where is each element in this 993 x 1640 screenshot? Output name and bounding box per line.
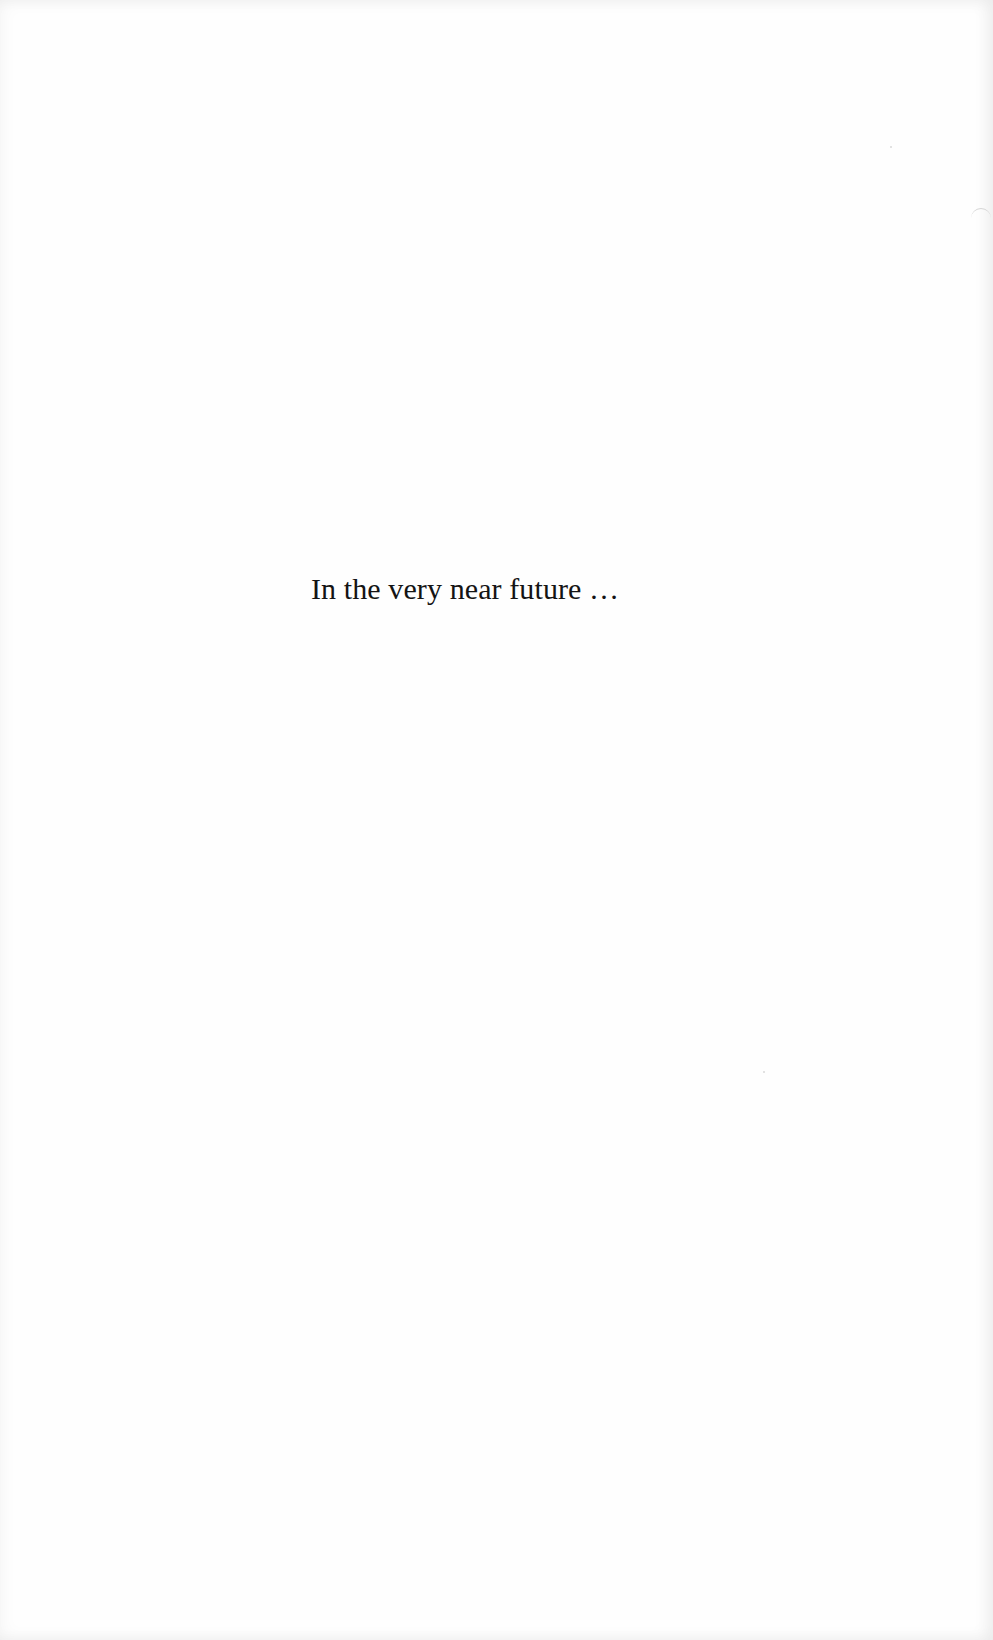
- scan-artifact: [971, 208, 991, 223]
- scan-speck: [890, 146, 892, 148]
- book-page: In the very near future …: [0, 0, 993, 1640]
- epigraph-text: In the very near future …: [311, 574, 619, 604]
- scan-speck: [763, 1071, 765, 1073]
